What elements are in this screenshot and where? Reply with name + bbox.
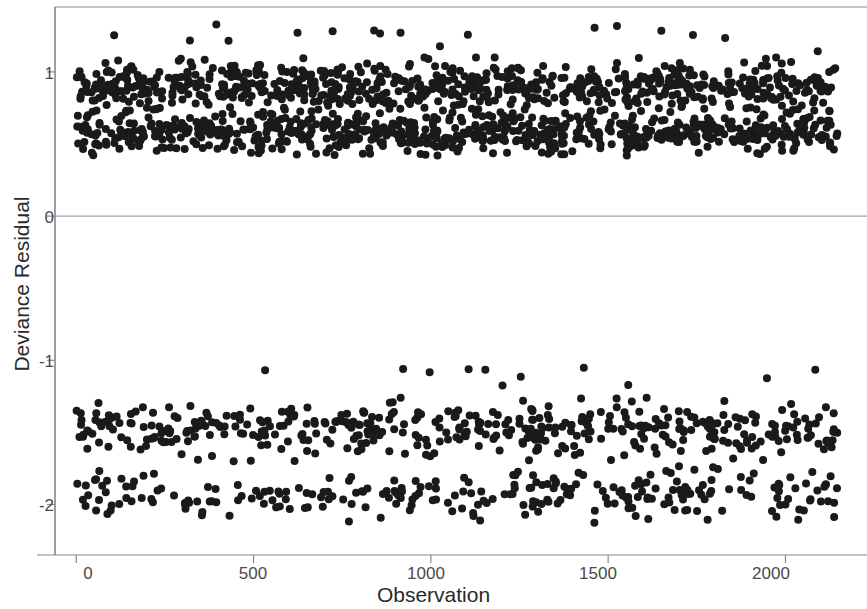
y-tick-label-minus-2: -2	[14, 496, 54, 516]
y-tick-label-0: 0	[14, 208, 54, 228]
x-tick-label-0: 0	[53, 564, 123, 584]
plot-canvas	[0, 0, 867, 609]
x-axis-label: Observation	[0, 583, 867, 607]
y-tick-label-minus-1: -1	[14, 352, 54, 372]
x-tick-label-1500: 1500	[563, 564, 633, 584]
x-tick-label-2000: 2000	[736, 564, 806, 584]
x-tick-label-500: 500	[218, 564, 288, 584]
scatter-points	[73, 21, 842, 527]
x-tick-label-1000: 1000	[391, 564, 461, 584]
y-tick-label-1: 1	[14, 64, 54, 84]
deviance-residual-scatter-plot: Deviance Residual Observation 1 0 -1 -2 …	[0, 0, 867, 609]
